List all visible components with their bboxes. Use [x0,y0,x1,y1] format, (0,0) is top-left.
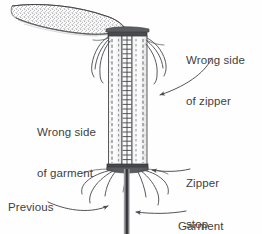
diagram-artwork [0,0,262,234]
zipper-assembly [106,27,149,173]
previous-stitching-seam [124,169,129,234]
leader-garment-folded-away [136,211,186,213]
leader-wrong-side-of-zipper [160,58,212,95]
zipper-diagram-figure: Wrong side of zipper Wrong side of garme… [0,0,262,234]
zipper-tape-right [132,36,147,165]
leader-previous-stitching-line [48,202,108,211]
zipper-teeth [122,36,132,165]
zipper-tape-left [109,36,123,165]
